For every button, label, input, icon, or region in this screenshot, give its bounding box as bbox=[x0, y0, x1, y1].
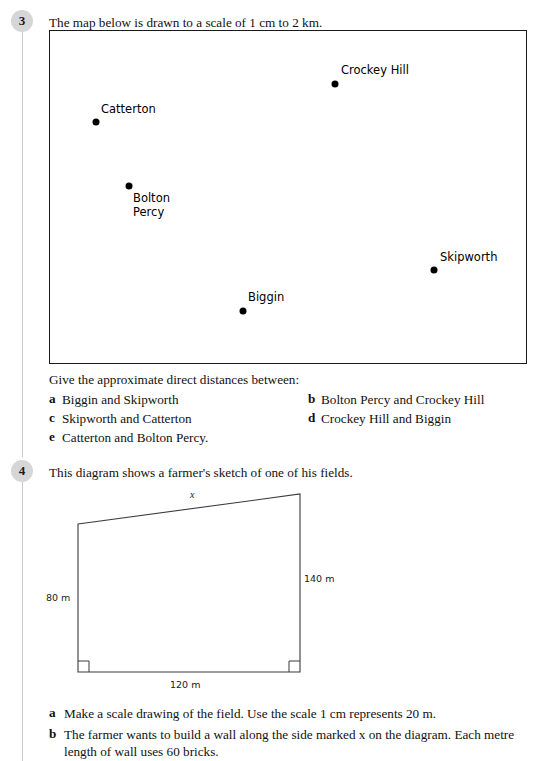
field-base-label: 120 m bbox=[170, 679, 200, 690]
worksheet-page: 3 The map below is drawn to a scale of 1… bbox=[0, 0, 543, 761]
question-4-part-a-text: Make a scale drawing of the field. Use t… bbox=[64, 705, 436, 722]
question-4-part-b-text: The farmer wants to build a wall along t… bbox=[64, 726, 534, 760]
right-angle-marker-right bbox=[289, 661, 300, 672]
right-angle-marker-left bbox=[78, 661, 89, 672]
question-number-3: 3 bbox=[11, 10, 33, 32]
field-diagram bbox=[0, 0, 543, 761]
field-outline bbox=[78, 494, 300, 672]
question-4-part-a-label: a bbox=[49, 705, 56, 721]
field-left-side-label: 80 m bbox=[46, 592, 70, 603]
question-number-4: 4 bbox=[11, 460, 33, 482]
field-side-x-label: x bbox=[190, 489, 194, 500]
question-4-part-b-label: b bbox=[49, 726, 56, 742]
field-right-side-label: 140 m bbox=[304, 573, 334, 584]
